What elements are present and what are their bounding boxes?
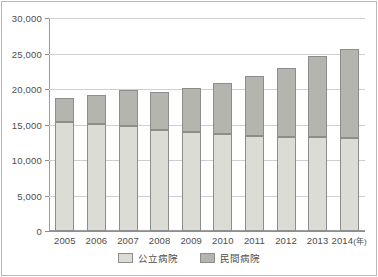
- x-tick-label: 2012: [275, 235, 297, 246]
- bar-segment-public[interactable]: [182, 132, 201, 231]
- chart-figure: 05,00010,00015,00020,00025,00030,000 200…: [1, 1, 377, 276]
- bar-group[interactable]: 2013: [308, 18, 327, 231]
- y-tick-label: 5,000: [17, 190, 42, 201]
- gridline-0: [49, 231, 365, 232]
- x-tick-label: 2011: [244, 235, 265, 246]
- bar-segment-private[interactable]: [213, 83, 232, 133]
- bar-segment-public[interactable]: [87, 124, 106, 231]
- bar-segment-public[interactable]: [213, 134, 232, 231]
- bar-segment-private[interactable]: [245, 76, 264, 136]
- y-tick-label: 25,000: [12, 48, 42, 59]
- bar-group[interactable]: 2009: [182, 18, 201, 231]
- bar-segment-private[interactable]: [277, 68, 296, 137]
- legend-label: 公立病院: [138, 251, 178, 265]
- bar-group[interactable]: 2012: [277, 18, 296, 231]
- bar-segment-private[interactable]: [308, 56, 327, 136]
- bar-segment-public[interactable]: [340, 138, 359, 231]
- bar-series-container: 2005200620072008200920102011201220132014…: [49, 18, 365, 231]
- y-tick-label: 20,000: [12, 84, 42, 95]
- x-tick-label: 2010: [212, 235, 234, 246]
- bar-segment-private[interactable]: [119, 90, 138, 126]
- plot-area: 05,00010,00015,00020,00025,00030,000 200…: [49, 18, 365, 231]
- bar-segment-private[interactable]: [340, 49, 359, 138]
- y-tick-label: 0: [37, 226, 42, 237]
- x-tick-label: 2008: [149, 235, 171, 246]
- bar-group[interactable]: 2010: [213, 18, 232, 231]
- bar-group[interactable]: 2008: [150, 18, 169, 231]
- y-tick-label: 10,000: [12, 155, 42, 166]
- x-tick-label: 2007: [117, 235, 139, 246]
- x-tick-label: 2009: [180, 235, 202, 246]
- bar-group[interactable]: 2011: [245, 18, 264, 231]
- bar-segment-public[interactable]: [119, 126, 138, 231]
- bar-segment-private[interactable]: [55, 98, 74, 121]
- x-tick-label: 2013: [307, 235, 329, 246]
- x-tick-label: 2005: [54, 235, 76, 246]
- y-tick-mark: [45, 231, 49, 232]
- bar-segment-public[interactable]: [308, 137, 327, 231]
- bar-group[interactable]: 2014(年): [340, 18, 359, 231]
- bar-segment-private[interactable]: [87, 95, 106, 124]
- bar-segment-private[interactable]: [150, 92, 169, 130]
- bar-segment-public[interactable]: [245, 136, 264, 231]
- legend-swatch-icon: [118, 253, 133, 263]
- x-tick-label: 2014(年): [332, 235, 367, 246]
- y-tick-label: 15,000: [12, 119, 42, 130]
- legend-item[interactable]: 公立病院: [118, 251, 178, 265]
- legend-item[interactable]: 民間病院: [200, 251, 260, 265]
- legend-swatch-icon: [200, 253, 215, 263]
- bar-segment-public[interactable]: [55, 122, 74, 231]
- x-tick-label: 2006: [86, 235, 108, 246]
- bar-segment-public[interactable]: [150, 130, 169, 231]
- legend-label: 民間病院: [220, 251, 260, 265]
- chart-legend: 公立病院民間病院: [2, 251, 376, 265]
- bar-group[interactable]: 2005: [55, 18, 74, 231]
- bar-group[interactable]: 2007: [119, 18, 138, 231]
- bar-segment-public[interactable]: [277, 137, 296, 231]
- bar-segment-private[interactable]: [182, 88, 201, 132]
- bar-group[interactable]: 2006: [87, 18, 106, 231]
- y-tick-label: 30,000: [12, 13, 42, 24]
